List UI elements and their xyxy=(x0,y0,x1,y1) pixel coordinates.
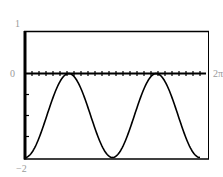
y-label-bottom: −2 xyxy=(16,164,27,174)
plot-area xyxy=(0,0,223,177)
x-label-right: 2π xyxy=(213,69,223,79)
plot-frame xyxy=(24,31,209,160)
y-label-top: 1 xyxy=(15,19,20,29)
y-label-zero: 0 xyxy=(10,69,15,79)
function-curve xyxy=(25,74,200,158)
